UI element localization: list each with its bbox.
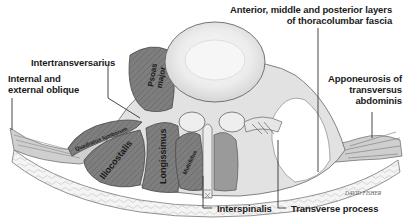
callout-fascia-line1: Anterior, middle and posterior layers [230, 4, 392, 15]
callout-aponeurosis-line3: abdominis [323, 95, 402, 106]
callout-interspinalis: Interspinalis [217, 203, 272, 214]
callout-aponeurosis-line1: Apponeurosis of [323, 73, 402, 84]
nucleus-pulposus [185, 40, 245, 80]
callout-transverse-process: Transverse process [291, 203, 378, 214]
artist-signature: DAVID FISHER [344, 190, 382, 196]
callout-aponeurosis-transversus: Apponeurosis of transversus abdominis [323, 73, 402, 106]
label-longissimus: Longissimus [158, 128, 168, 184]
anatomy-diagram: Psoas major Quadratus lumborum Iliocosta… [0, 0, 406, 220]
spinous-process [203, 124, 212, 198]
callout-oblique-line1: Internal and [8, 73, 79, 84]
callout-oblique-line2: external oblique [8, 84, 79, 95]
callout-aponeurosis-line2: transversus [323, 84, 402, 95]
facet-left [179, 112, 205, 132]
callout-fascia-line2: of thoracolumbar fascia [230, 15, 392, 26]
erector-right [214, 132, 238, 191]
callout-intertransversarius: Intertransversarius [31, 57, 115, 68]
facet-right [219, 112, 245, 132]
callout-internal-external-oblique: Internal and external oblique [8, 73, 79, 95]
callout-thoracolumbar-fascia: Anterior, middle and posterior layers of… [230, 4, 392, 26]
